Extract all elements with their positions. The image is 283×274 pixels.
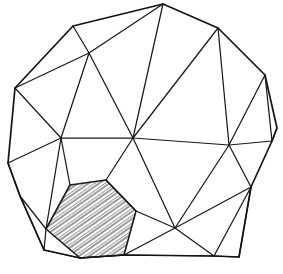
- figure-background: [0, 0, 283, 274]
- polyhedron-canvas: [0, 0, 283, 274]
- polyhedron-figure: [0, 0, 283, 274]
